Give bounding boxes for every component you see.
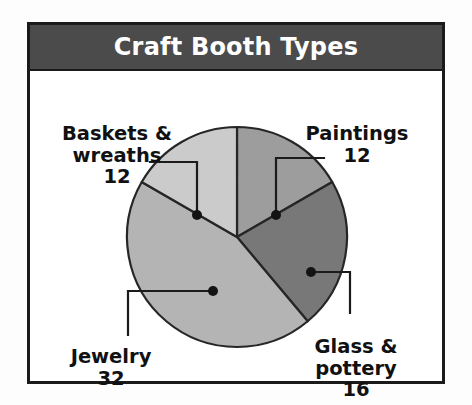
leader-dot-paintings xyxy=(271,210,281,220)
pie-label-baskets-wreaths: Baskets & wreaths 12 xyxy=(42,101,192,210)
pie-label-paintings-value: 12 xyxy=(282,145,432,167)
figure-root: Craft Booth Types xyxy=(0,0,472,405)
pie-label-baskets-wreaths-name: Baskets & wreaths xyxy=(62,122,172,167)
pie-label-baskets-wreaths-value: 12 xyxy=(42,166,192,188)
pie-label-glass-pottery-name: Glass & pottery xyxy=(315,335,398,380)
pie-label-glass-pottery-value: 16 xyxy=(280,379,432,401)
leader-dot-jewelry xyxy=(208,286,218,296)
pie-label-jewelry: Jewelry 32 xyxy=(36,324,186,405)
pie-chart-plot-area: Baskets & wreaths 12 Paintings 12 Glass … xyxy=(30,71,442,381)
pie-label-paintings: Paintings 12 xyxy=(282,101,432,188)
pie-label-jewelry-value: 32 xyxy=(36,368,186,390)
leader-dot-glass-pottery xyxy=(306,267,316,277)
leader-dot-baskets-wreaths xyxy=(192,210,202,220)
pie-label-paintings-name: Paintings xyxy=(306,122,409,145)
pie-label-jewelry-name: Jewelry xyxy=(71,345,152,368)
pie-label-glass-pottery: Glass & pottery 16 xyxy=(280,314,432,405)
chart-panel: Craft Booth Types xyxy=(27,22,445,384)
